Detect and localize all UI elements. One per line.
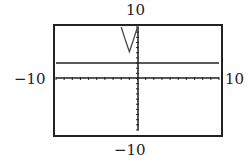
graph-plot [0,0,249,164]
parabola-curve [121,27,137,52]
